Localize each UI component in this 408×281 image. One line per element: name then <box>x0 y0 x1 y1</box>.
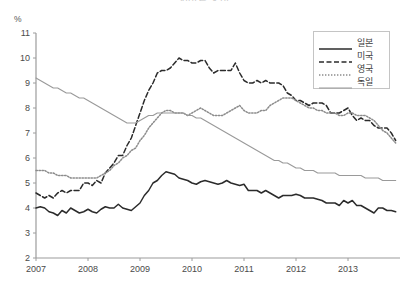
legend-item-미국[interactable]: 미국 <box>319 49 384 62</box>
x-tick-label: 2013 <box>338 264 358 274</box>
y-tick-label: 5 <box>25 178 30 188</box>
legend-item-일본[interactable]: 일본 <box>319 36 384 49</box>
y-tick-label: 2 <box>25 253 30 263</box>
y-tick-label: 7 <box>25 128 30 138</box>
legend-item-독일[interactable]: 독일 <box>319 75 384 88</box>
unemployment-rate-chart: 실업률 추이 % 234567891011 200720082009201020… <box>0 0 408 281</box>
y-tick-label: 3 <box>25 228 30 238</box>
x-tick-label: 2009 <box>130 264 150 274</box>
legend-label: 독일 <box>357 77 373 87</box>
legend-swatch-icon <box>319 52 352 60</box>
legend-label: 미국 <box>357 51 373 61</box>
x-tick-label: 2010 <box>182 264 202 274</box>
y-axis: 234567891011 <box>20 28 36 263</box>
x-tick-label: 2012 <box>286 264 306 274</box>
y-tick-label: 4 <box>25 203 30 213</box>
series-line-영국 <box>36 98 396 178</box>
legend-swatch-icon <box>319 65 352 73</box>
legend-item-영국[interactable]: 영국 <box>319 62 384 75</box>
series-line-독일 <box>36 78 396 181</box>
x-tick-label: 2008 <box>78 264 98 274</box>
y-tick-label: 11 <box>21 28 30 38</box>
y-tick-label: 6 <box>25 153 30 163</box>
x-tick-label: 2011 <box>234 264 253 274</box>
legend-label: 영국 <box>357 64 373 74</box>
y-tick-label: 8 <box>25 103 30 113</box>
y-tick-label: 9 <box>25 78 30 88</box>
legend-swatch-icon <box>319 78 352 86</box>
legend-swatch-icon <box>319 39 352 47</box>
x-axis: 2007200820092010201120122013 <box>26 258 400 274</box>
legend: 일본미국영국독일 <box>313 31 390 89</box>
y-tick-label: 10 <box>20 53 30 63</box>
legend-label: 일본 <box>357 38 373 48</box>
x-tick-label: 2007 <box>26 264 46 274</box>
